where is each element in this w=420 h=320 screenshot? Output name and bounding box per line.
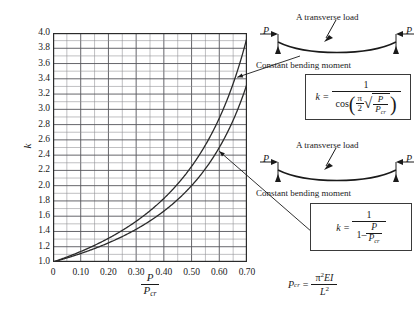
x-axis-label-denominator-sub: cr: [150, 289, 156, 298]
pcr-lhs-sub: cr: [294, 281, 300, 288]
formula-1-radicand-sub: cr: [381, 109, 386, 115]
pcr-L-exponent: 2: [325, 285, 329, 293]
formula-1-two: 2: [356, 104, 365, 113]
diagram-1-caption: Constant bending moment: [256, 60, 351, 70]
euler-load-equation: Pcr = π2EI L2: [288, 272, 337, 297]
diagram-1-load-right: P: [406, 25, 412, 36]
formula-2-equals: =: [344, 222, 350, 233]
diagram-2-load-right: P: [406, 153, 412, 164]
formula-1-sqrt-icon: √: [364, 96, 372, 111]
formula-1-paren-close: ): [390, 95, 397, 113]
formula-2-frac-sub: cr: [374, 237, 379, 244]
formula-box-amplification: k = 1 1 – P Pcr: [310, 203, 412, 251]
formula-box-secant: k = 1 cos ( π 2 √ P P: [305, 74, 411, 120]
figure-root: k 1.01.21.41.61.82.02.22.42.62.83.03.23.…: [0, 0, 420, 320]
chart-canvas: [53, 33, 247, 262]
diagram-1-load-left: P: [263, 25, 269, 36]
formula-1-numerator: 1: [332, 79, 401, 92]
pcr-equals: =: [303, 279, 309, 290]
formula-1-equals: =: [323, 91, 329, 102]
formula-1-cos: cos: [336, 98, 349, 109]
formula-1-paren-open: (: [349, 95, 356, 113]
formula-2-lhs: k: [336, 222, 340, 233]
formula-2-numerator: 1: [352, 209, 385, 222]
formula-1-lhs: k: [315, 91, 319, 102]
plot-area: [53, 33, 247, 262]
diagram-2-load-left: P: [263, 153, 269, 164]
x-axis-label: P Pcr: [120, 272, 180, 298]
x-tick-0.70: 0.70: [230, 268, 264, 278]
pcr-I: I: [330, 272, 333, 283]
diagram-2-caption: Constant bending moment: [256, 188, 351, 198]
